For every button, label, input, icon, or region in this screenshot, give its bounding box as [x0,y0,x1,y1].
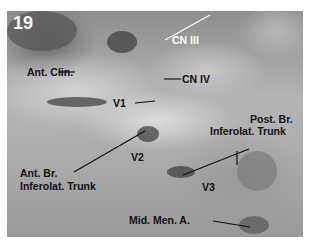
label-ant-br-line1: Ant. Br. [20,167,57,179]
label-ant-br-line2: Inferolat. Trunk [20,180,96,192]
label-ant-clin: Ant. Clin. [27,66,73,78]
label-v1: V1 [113,97,126,109]
label-cn-iv: CN IV [182,73,210,85]
figure-number: 19 [13,13,33,34]
label-post-br-line2: Inferolat. Trunk [210,125,286,137]
label-post-br-line1: Post. Br. [250,113,293,125]
label-cn-iii: CN III [172,34,199,46]
label-v2: V2 [131,151,144,163]
label-mid-men-a: Mid. Men. A. [129,214,190,226]
label-v3: V3 [202,181,215,193]
